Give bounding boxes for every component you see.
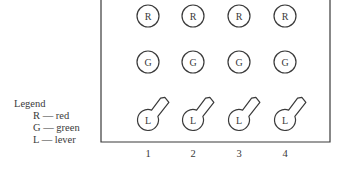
light-red-icon: R xyxy=(182,5,204,27)
column-label-4: 4 xyxy=(277,148,293,159)
light-green-icon: G xyxy=(182,51,204,73)
control-panel: RRRRGGGGLLLL xyxy=(0,0,342,170)
column-label-3: 3 xyxy=(231,148,247,159)
light-red-icon: R xyxy=(228,5,250,27)
svg-text:R: R xyxy=(282,11,289,22)
svg-text:G: G xyxy=(281,57,288,68)
svg-text:R: R xyxy=(145,11,152,22)
column-label-1: 1 xyxy=(140,148,156,159)
svg-text:L: L xyxy=(236,115,242,126)
svg-text:G: G xyxy=(235,57,242,68)
lever-icon: L xyxy=(138,97,169,130)
light-green-icon: G xyxy=(228,51,250,73)
lever-icon: L xyxy=(275,97,306,130)
svg-text:L: L xyxy=(282,115,288,126)
lever-icon: L xyxy=(183,97,214,130)
light-red-icon: R xyxy=(137,5,159,27)
svg-text:R: R xyxy=(236,11,243,22)
svg-text:L: L xyxy=(190,115,196,126)
light-green-icon: G xyxy=(274,51,296,73)
column-label-2: 2 xyxy=(185,148,201,159)
svg-text:L: L xyxy=(145,115,151,126)
svg-text:R: R xyxy=(190,11,197,22)
light-red-icon: R xyxy=(274,5,296,27)
light-green-icon: G xyxy=(137,51,159,73)
lever-icon: L xyxy=(228,97,259,130)
svg-text:G: G xyxy=(189,57,196,68)
svg-text:G: G xyxy=(144,57,151,68)
